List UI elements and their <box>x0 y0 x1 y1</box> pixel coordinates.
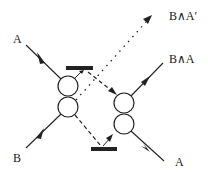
output-b-and-a-label: B∧A <box>169 53 194 65</box>
output-a-line <box>131 131 164 161</box>
output-a-label: A <box>175 156 184 168</box>
arrowhead-icon <box>36 128 44 139</box>
left-gate-bottom-circle <box>58 97 78 117</box>
arrowhead-icon <box>108 87 117 95</box>
arrowhead-icon <box>143 15 152 24</box>
input-a-label: A <box>13 33 22 45</box>
top-bar <box>66 66 93 70</box>
dotted-output-line <box>76 15 152 100</box>
input-b-label: B <box>13 152 21 164</box>
input-b-line <box>26 114 61 148</box>
arrowhead-icon <box>37 52 45 64</box>
input-a-line <box>26 45 61 79</box>
left-gate-top-circle <box>58 76 78 96</box>
logic-diagram <box>0 0 208 179</box>
dashed-left-to-bottom-line <box>75 115 101 146</box>
bottom-bar <box>91 147 117 151</box>
output-b-and-a-line <box>131 63 163 96</box>
output-b-and-not-a-label: B∧A′ <box>169 10 197 22</box>
dashed-top-to-right-line <box>88 72 117 95</box>
